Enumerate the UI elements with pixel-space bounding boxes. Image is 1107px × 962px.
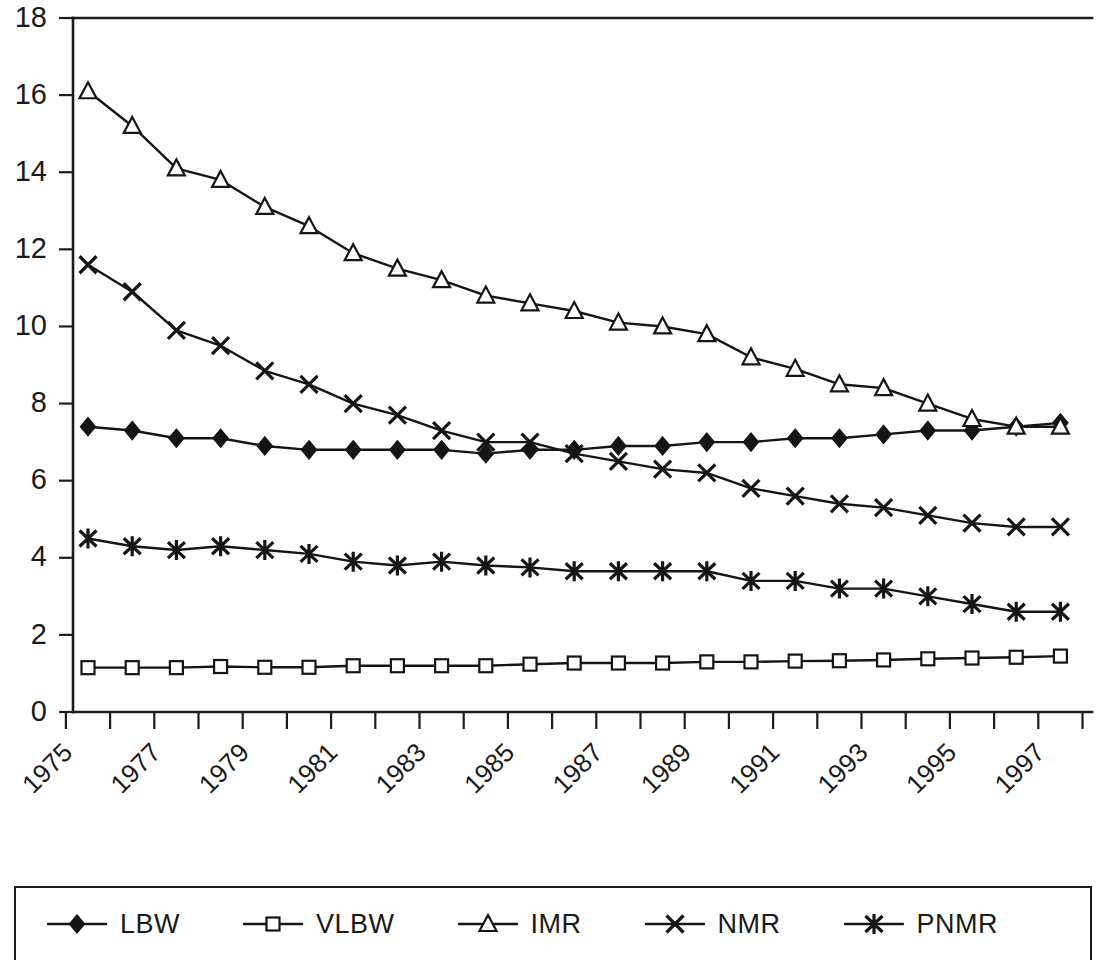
y-tick-label-6: 6	[31, 463, 47, 495]
marker-open-square-icon	[214, 660, 227, 673]
marker-filled-diamond-icon	[655, 437, 670, 455]
marker-open-square-icon	[833, 654, 846, 667]
series-IMR	[80, 82, 1069, 433]
marker-open-square-icon	[789, 655, 802, 668]
x-tick-label-1991: 1991	[723, 737, 785, 799]
legend-item-IMR[interactable]: IMR	[457, 909, 582, 940]
marker-filled-diamond-icon	[81, 418, 96, 436]
marker-open-square-icon	[1054, 650, 1067, 663]
x-tick-label-1997: 1997	[988, 737, 1050, 799]
marker-cross-x-icon	[124, 283, 141, 300]
filled-diamond-icon	[46, 911, 108, 937]
marker-open-square-icon	[303, 661, 316, 674]
marker-open-square-icon	[170, 661, 183, 674]
marker-open-square-icon	[921, 652, 934, 665]
marker-cross-x-icon	[433, 422, 450, 439]
y-tick-label-14: 14	[15, 155, 47, 187]
x-tick-label-1989: 1989	[635, 737, 697, 799]
series-VLBW	[82, 650, 1067, 675]
cross-x-icon	[644, 911, 706, 937]
x-tick-label-1983: 1983	[370, 737, 432, 799]
marker-cross-x-icon	[80, 256, 97, 273]
chart-legend: LBWVLBWIMRNMRPNMR	[14, 886, 1092, 960]
marker-open-square-icon	[700, 655, 713, 668]
marker-open-square-icon	[656, 657, 669, 670]
marker-open-triangle-icon	[301, 217, 318, 233]
marker-cross-x-icon	[389, 407, 406, 424]
y-tick-label-0: 0	[31, 695, 47, 727]
marker-filled-diamond-icon	[213, 429, 228, 447]
chart-figure: 0246810121416181975197719791981198319851…	[0, 0, 1107, 962]
marker-open-square-icon	[126, 661, 139, 674]
x-tick-label-1977: 1977	[104, 737, 166, 799]
y-tick-label-8: 8	[31, 386, 47, 418]
legend-label-IMR: IMR	[531, 909, 582, 940]
marker-open-triangle-icon	[256, 198, 273, 214]
x-tick-label-1981: 1981	[281, 737, 343, 799]
marker-filled-diamond-icon	[257, 437, 272, 455]
line-chart-plot: 0246810121416181975197719791981198319851…	[0, 0, 1107, 880]
marker-open-square-icon	[391, 659, 404, 672]
marker-cross-x-icon	[256, 362, 273, 379]
marker-open-triangle-icon	[80, 82, 97, 98]
legend-label-NMR: NMR	[718, 909, 781, 940]
marker-open-square-icon	[267, 918, 280, 931]
x-tick-label-1975: 1975	[16, 737, 78, 799]
marker-cross-x-icon	[212, 337, 229, 354]
marker-cross-x-icon	[168, 322, 185, 339]
legend-item-NMR[interactable]: NMR	[644, 909, 781, 940]
marker-filled-diamond-icon	[125, 422, 140, 440]
asterisk-star-icon	[843, 911, 905, 937]
legend-row: LBWVLBWIMRNMRPNMR	[16, 888, 1090, 960]
series-NMR	[80, 256, 1069, 535]
marker-cross-x-icon	[301, 376, 318, 393]
legend-item-PNMR[interactable]: PNMR	[843, 909, 999, 940]
marker-open-triangle-icon	[743, 348, 760, 364]
marker-filled-diamond-icon	[920, 422, 935, 440]
marker-open-square-icon	[258, 661, 271, 674]
marker-open-square-icon	[612, 657, 625, 670]
y-tick-label-18: 18	[15, 1, 47, 33]
legend-label-VLBW: VLBW	[316, 909, 395, 940]
x-tick-label-1985: 1985	[458, 737, 520, 799]
x-tick-label-1987: 1987	[546, 737, 608, 799]
y-tick-label-16: 16	[15, 78, 47, 110]
x-tick-label-1979: 1979	[193, 737, 255, 799]
marker-filled-diamond-icon	[876, 425, 891, 443]
marker-open-square-icon	[347, 659, 360, 672]
legend-label-PNMR: PNMR	[917, 909, 999, 940]
legend-label-LBW: LBW	[120, 909, 180, 940]
marker-filled-diamond-icon	[169, 429, 184, 447]
y-tick-label-10: 10	[15, 309, 47, 341]
marker-filled-diamond-icon	[832, 429, 847, 447]
marker-open-square-icon	[568, 657, 581, 670]
legend-item-LBW[interactable]: LBW	[46, 909, 180, 940]
y-tick-label-2: 2	[31, 618, 47, 650]
y-tick-label-4: 4	[31, 540, 47, 572]
marker-open-square-icon	[479, 659, 492, 672]
marker-open-square-icon	[1010, 651, 1023, 664]
marker-open-square-icon	[524, 658, 537, 671]
legend-item-VLBW[interactable]: VLBW	[242, 909, 395, 940]
marker-filled-diamond-icon	[70, 915, 85, 933]
open-triangle-icon	[457, 911, 519, 937]
marker-filled-diamond-icon	[788, 429, 803, 447]
marker-open-square-icon	[877, 653, 890, 666]
x-tick-label-1993: 1993	[812, 737, 874, 799]
marker-filled-diamond-icon	[699, 433, 714, 451]
marker-open-square-icon	[435, 659, 448, 672]
marker-open-square-icon	[966, 652, 979, 665]
marker-filled-diamond-icon	[744, 433, 759, 451]
marker-filled-diamond-icon	[302, 441, 317, 459]
marker-filled-diamond-icon	[434, 441, 449, 459]
y-tick-label-12: 12	[15, 232, 47, 264]
marker-cross-x-icon	[345, 395, 362, 412]
series-line-IMR	[88, 91, 1060, 426]
x-tick-label-1995: 1995	[900, 737, 962, 799]
marker-filled-diamond-icon	[346, 441, 361, 459]
marker-open-square-icon	[745, 655, 758, 668]
marker-filled-diamond-icon	[390, 441, 405, 459]
marker-filled-diamond-icon	[611, 437, 626, 455]
marker-open-square-icon	[82, 661, 95, 674]
open-square-icon	[242, 911, 304, 937]
